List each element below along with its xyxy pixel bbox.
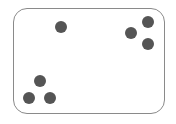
dot-5 <box>34 75 46 87</box>
dot-1 <box>55 21 67 33</box>
dot-7 <box>44 92 56 104</box>
dot-4 <box>142 38 154 50</box>
dot-2 <box>125 27 137 39</box>
dot-3 <box>142 16 154 28</box>
dot-field <box>0 0 176 124</box>
dot-6 <box>23 92 35 104</box>
